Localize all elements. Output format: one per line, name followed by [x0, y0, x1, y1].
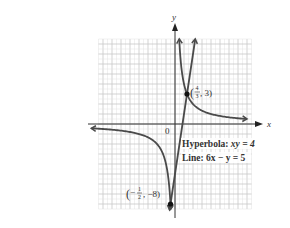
point2-y-value: , −8) — [143, 189, 160, 199]
line-annotation: Line: 6x − y = 5 — [182, 153, 246, 163]
x-axis-arrow-icon — [255, 121, 263, 127]
y-axis-arrow-icon — [172, 23, 178, 31]
point2-numerator: 1 — [138, 186, 141, 192]
x-axis-label: x — [266, 119, 271, 129]
intersection-point-4-3-3 — [184, 91, 189, 96]
hyperbola-annotation: Hyperbola: xy = 4 — [182, 139, 255, 149]
chart-figure: x y 0 ( 4 3 , 3) ( − — [0, 0, 290, 228]
point1-open-paren: ( — [190, 86, 194, 100]
intersection-point-neg-half-neg-8 — [168, 201, 173, 206]
plot-area: x y 0 ( 4 3 , 3) ( − — [0, 0, 290, 228]
point1-denominator: 3 — [196, 93, 199, 99]
origin-label: 0 — [165, 126, 170, 136]
point2-minus: − — [130, 187, 135, 197]
point1-numerator: 4 — [196, 85, 199, 91]
point1-label: ( 4 3 , 3) — [190, 85, 212, 100]
y-axis-label: y — [171, 12, 176, 22]
point1-y-value: , 3) — [200, 88, 212, 98]
point2-denominator: 2 — [138, 194, 141, 200]
